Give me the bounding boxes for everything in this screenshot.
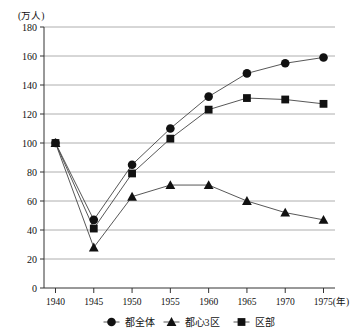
data-point-square-icon bbox=[243, 94, 251, 102]
x-axis-tick-label: 1965 bbox=[237, 297, 256, 307]
x-axis-tick-label: 1960 bbox=[199, 297, 218, 307]
x-axis-tick-label: 1970 bbox=[276, 297, 295, 307]
data-point-square-icon bbox=[320, 100, 328, 108]
x-axis-tick-label: 1950 bbox=[123, 297, 142, 307]
y-axis-tick-label: 100 bbox=[22, 138, 37, 149]
data-point-square-icon bbox=[128, 170, 136, 178]
legend-label: 都全体 bbox=[125, 316, 155, 328]
data-point-triangle-icon bbox=[89, 243, 99, 252]
data-point-circle-icon bbox=[166, 124, 175, 133]
legend-label: 区部 bbox=[255, 316, 275, 328]
y-axis-unit-label: (万人) bbox=[18, 11, 44, 22]
line-chart: 020406080100120140160180(万人)194019451950… bbox=[0, 0, 350, 332]
y-axis-tick-label: 80 bbox=[27, 167, 37, 178]
y-axis-tick-label: 160 bbox=[22, 51, 37, 62]
legend-marker-square-icon bbox=[238, 318, 246, 326]
series-line-circle bbox=[55, 57, 323, 219]
data-point-triangle-icon bbox=[242, 196, 252, 205]
y-axis-tick-label: 60 bbox=[27, 196, 37, 207]
data-point-square-icon bbox=[166, 135, 174, 143]
data-point-circle-icon bbox=[204, 92, 213, 101]
data-point-square-icon bbox=[90, 225, 98, 233]
x-axis-tick-label: 1945 bbox=[84, 297, 103, 307]
data-point-triangle-icon bbox=[127, 192, 137, 201]
y-axis-tick-label: 120 bbox=[22, 109, 37, 120]
y-axis-tick-label: 0 bbox=[32, 283, 37, 294]
x-axis-tick-label: 1940 bbox=[46, 297, 65, 307]
data-point-circle-icon bbox=[89, 216, 98, 225]
data-point-square-icon bbox=[281, 96, 289, 104]
data-point-circle-icon bbox=[281, 59, 290, 68]
y-axis-tick-label: 20 bbox=[27, 254, 37, 265]
legend-label: 都心3区 bbox=[185, 317, 220, 328]
x-axis-tick-label: 1975(年) bbox=[314, 296, 349, 308]
y-axis-tick-label: 140 bbox=[22, 80, 37, 91]
data-point-circle-icon bbox=[319, 53, 328, 62]
series-line-square bbox=[55, 98, 323, 229]
data-point-square-icon bbox=[52, 139, 60, 147]
data-point-circle-icon bbox=[243, 69, 252, 78]
x-axis-tick-label: 1955 bbox=[161, 297, 180, 307]
data-point-circle-icon bbox=[128, 160, 137, 169]
legend-marker-circle-icon bbox=[107, 318, 116, 327]
data-point-triangle-icon bbox=[280, 208, 290, 217]
data-point-square-icon bbox=[205, 106, 213, 114]
y-axis-tick-label: 40 bbox=[27, 225, 37, 236]
y-axis-tick-label: 180 bbox=[22, 22, 37, 33]
chart-canvas: 020406080100120140160180(万人)194019451950… bbox=[0, 0, 350, 332]
